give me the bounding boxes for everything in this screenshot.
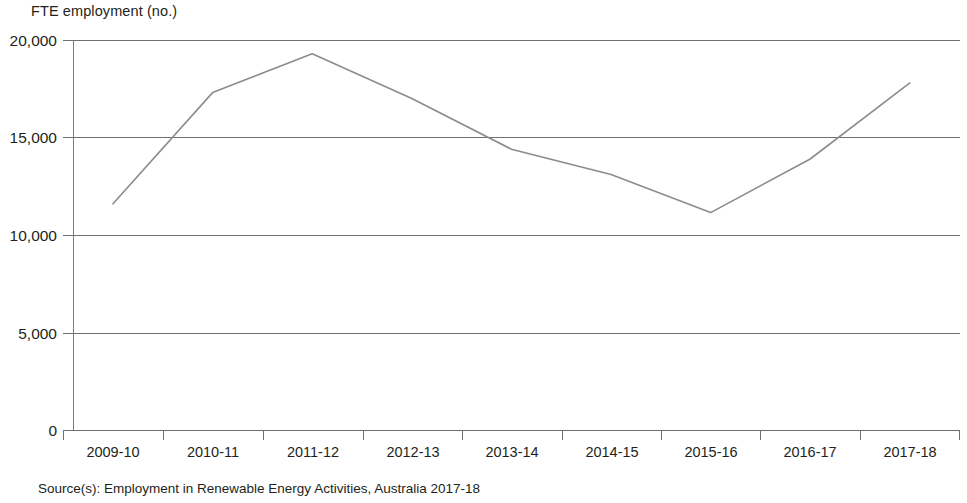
x-tick-mark-9 [959,431,960,440]
x-tick-mark-3 [363,431,364,440]
source-note: Source(s): Employment in Renewable Energ… [38,481,480,496]
x-tick-mark-0 [63,431,64,440]
x-tick-mark-2 [263,431,264,440]
x-tick-mark-6 [661,431,662,440]
gridline-5000 [73,333,960,334]
gridline-15000 [73,137,960,138]
x-tick-mark-1 [163,431,164,440]
x-axis-line [63,430,960,431]
x-tick-label-2015-16: 2015-16 [684,444,737,460]
x-tick-label-2016-17: 2016-17 [783,444,836,460]
gridline-20000 [73,40,960,41]
x-tick-mark-7 [760,431,761,440]
y-tick-label-15000: 15,000 [10,129,57,147]
x-tick-label-2013-14: 2013-14 [485,444,538,460]
x-tick-mark-4 [462,431,463,440]
y-tick-label-5000: 5,000 [18,325,57,343]
gridline-10000 [73,235,960,236]
x-tick-label-2011-12: 2011-12 [287,444,339,460]
y-tick-label-20000: 20,000 [10,32,57,50]
y-axis-tick-labels: 20,000 15,000 10,000 5,000 0 [0,0,57,503]
y-tick-label-0: 0 [48,422,57,440]
x-tick-label-2017-18: 2017-18 [883,444,936,460]
x-tick-mark-5 [562,431,563,440]
plot-area [73,40,960,430]
y-axis-line [73,40,74,431]
x-tick-label-2009-10: 2009-10 [86,444,139,460]
x-tick-label-2010-11: 2010-11 [187,444,239,460]
y-tick-label-10000: 10,000 [10,227,57,245]
chart-figure: FTE employment (no.) 20,000 15,000 10,00… [0,0,967,503]
x-tick-mark-8 [860,431,861,440]
x-tick-label-2012-13: 2012-13 [386,444,439,460]
x-tick-label-2014-15: 2014-15 [585,444,638,460]
